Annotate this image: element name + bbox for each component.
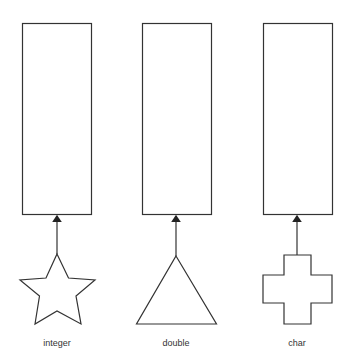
integer-box <box>23 24 92 215</box>
cross-icon <box>263 255 332 324</box>
double-box <box>143 24 212 215</box>
star-icon <box>20 254 95 324</box>
integer-label: integer <box>17 338 97 348</box>
diagram-canvas <box>0 0 350 361</box>
char-box <box>264 24 333 215</box>
triangle-icon <box>137 256 217 324</box>
char-label: char <box>257 338 337 348</box>
double-label: double <box>136 338 216 348</box>
